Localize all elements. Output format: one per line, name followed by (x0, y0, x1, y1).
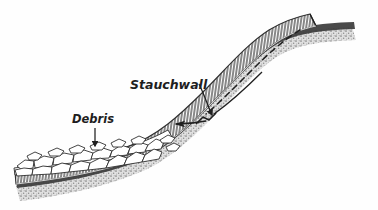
scan-artifact-overlay (0, 0, 378, 210)
figure-root: Stauchwall Debris (0, 0, 378, 210)
cross-section-drawing: Stauchwall Debris (0, 0, 378, 210)
